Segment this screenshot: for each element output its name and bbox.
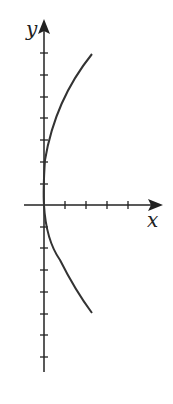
y-axis-label: y	[25, 17, 38, 41]
curve	[44, 54, 92, 313]
graph: y x	[0, 0, 173, 404]
x-axis-label: x	[147, 208, 158, 232]
